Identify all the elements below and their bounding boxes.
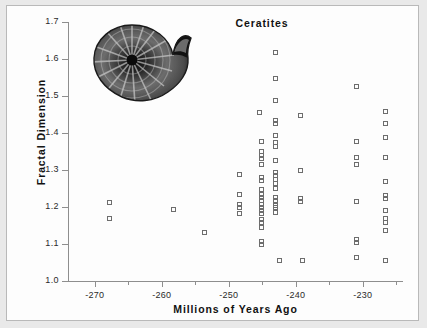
y-tick-label: 1.4 xyxy=(15,127,59,137)
data-point xyxy=(273,158,278,163)
data-point xyxy=(298,113,303,118)
data-point xyxy=(273,121,278,126)
x-minor-tick xyxy=(329,281,330,285)
data-point xyxy=(383,228,388,233)
data-point xyxy=(237,211,242,216)
data-point xyxy=(277,258,282,263)
y-tick-label: 1.5 xyxy=(15,90,59,100)
data-point xyxy=(273,186,278,191)
data-point xyxy=(273,144,278,149)
data-point xyxy=(383,121,388,126)
x-tick-label: -260 xyxy=(139,290,185,300)
x-tick xyxy=(296,281,297,287)
data-point xyxy=(354,84,359,89)
data-point xyxy=(273,133,278,138)
data-point xyxy=(298,199,303,204)
data-point xyxy=(259,211,264,216)
data-point xyxy=(383,196,388,201)
data-point xyxy=(298,168,303,173)
data-point xyxy=(202,230,207,235)
y-tick-label: 1.2 xyxy=(15,201,59,211)
x-tick-label: -250 xyxy=(206,290,252,300)
data-point xyxy=(354,162,359,167)
data-point xyxy=(354,155,359,160)
data-point xyxy=(237,205,242,210)
data-point xyxy=(171,207,176,212)
data-point xyxy=(383,179,388,184)
data-point xyxy=(259,162,264,167)
data-point xyxy=(383,135,388,140)
data-point xyxy=(107,216,112,221)
figure-panel: Ceratites xyxy=(6,5,419,321)
x-tick-label: -230 xyxy=(340,290,386,300)
data-point xyxy=(257,110,262,115)
y-tick xyxy=(62,281,68,282)
data-point xyxy=(273,210,278,215)
data-point xyxy=(383,220,388,225)
x-tick xyxy=(95,281,96,287)
data-point xyxy=(237,192,242,197)
x-tick xyxy=(363,281,364,287)
data-point xyxy=(107,200,112,205)
y-tick-label: 1.0 xyxy=(15,275,59,285)
data-point xyxy=(259,242,264,247)
x-tick-label: -240 xyxy=(273,290,319,300)
data-point xyxy=(259,178,264,183)
scatter-plot-area xyxy=(68,22,401,281)
data-point xyxy=(354,255,359,260)
data-point xyxy=(354,139,359,144)
y-tick-label: 1.3 xyxy=(15,164,59,174)
x-tick xyxy=(162,281,163,287)
x-tick-label: -270 xyxy=(72,290,118,300)
data-point xyxy=(383,109,388,114)
y-tick-label: 1.7 xyxy=(15,16,59,26)
data-point xyxy=(259,225,264,230)
x-axis-label: Millions of Years Ago xyxy=(68,303,403,315)
data-point xyxy=(354,199,359,204)
x-minor-tick xyxy=(195,281,196,285)
y-tick-label: 1.1 xyxy=(15,238,59,248)
x-tick xyxy=(229,281,230,287)
y-tick-label: 1.6 xyxy=(15,53,59,63)
data-point xyxy=(259,156,264,161)
data-point xyxy=(383,208,388,213)
data-point xyxy=(300,258,305,263)
x-minor-tick xyxy=(262,281,263,285)
data-point xyxy=(383,258,388,263)
data-point xyxy=(273,98,278,103)
data-point xyxy=(354,240,359,245)
data-point xyxy=(273,50,278,55)
x-minor-tick xyxy=(396,281,397,285)
data-point xyxy=(237,172,242,177)
data-point xyxy=(259,139,264,144)
data-point xyxy=(273,76,278,81)
data-point xyxy=(383,155,388,160)
x-minor-tick xyxy=(128,281,129,285)
x-axis-line xyxy=(68,281,403,282)
